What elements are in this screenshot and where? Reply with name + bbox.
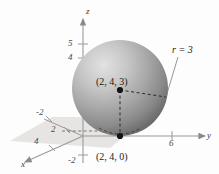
radius-label: r = 3 [172, 45, 193, 55]
z-tick-label-5: 5 [68, 39, 73, 48]
radius-leader-line [166, 57, 178, 97]
center-point-marker [117, 87, 123, 93]
z-axis-label: z [86, 7, 90, 16]
center-point-label: (2, 4, 3) [96, 77, 128, 87]
x-tick-label-4: 4 [34, 137, 39, 146]
z-tick-label-4: 4 [68, 53, 73, 62]
y-tick-label-6: 6 [169, 139, 174, 148]
tangent-point-label: (2, 4, 0) [96, 152, 128, 162]
x-axis-label: x [21, 160, 25, 169]
tangent-point-marker [117, 133, 123, 139]
z-tick-label-negative-2: -2 [68, 156, 76, 165]
y-axis-label: y [207, 131, 211, 140]
sphere-3d-figure: z 5 4 -2 y 6 x -2 2 4 (2, 4, 3) (2, 4, 0… [0, 0, 219, 174]
x-tick-label-2: 2 [51, 125, 56, 134]
figure-canvas [0, 0, 219, 174]
x-tick-label-negative-2: -2 [36, 108, 44, 117]
